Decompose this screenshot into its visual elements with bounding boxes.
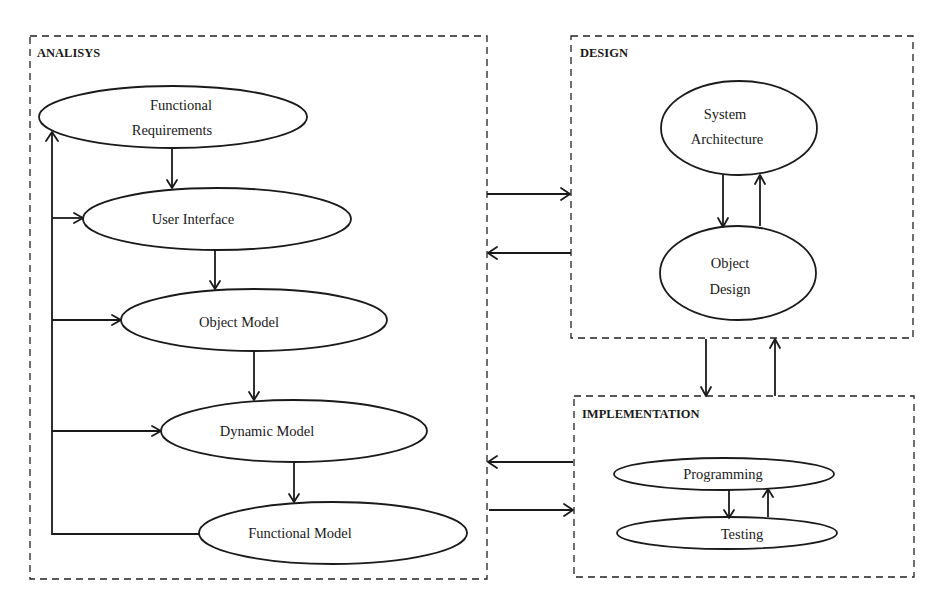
arrow-objectmodel-to-dynamicmodel bbox=[249, 351, 259, 400]
arrow-funcreq-to-userinterface bbox=[167, 148, 177, 188]
node-system-architecture[interactable]: System Architecture bbox=[661, 81, 817, 175]
object-model-label: Object Model bbox=[199, 314, 279, 330]
functional-requirements-label-line2: Requirements bbox=[132, 122, 213, 138]
node-user-interface[interactable]: User Interface bbox=[83, 188, 351, 250]
arrow-analysis-to-implementation bbox=[489, 504, 573, 516]
design-label: DESIGN bbox=[580, 46, 628, 60]
arrow-dynamicmodel-to-functionalmodel bbox=[289, 462, 299, 502]
arrow-feedback-to-dynamicmodel bbox=[52, 426, 161, 436]
arrow-objdesign-to-sysarch bbox=[755, 175, 765, 226]
arrow-design-to-implementation bbox=[701, 339, 711, 396]
arrow-programming-to-testing bbox=[724, 490, 734, 518]
arrow-analysis-to-design bbox=[487, 188, 570, 200]
arrow-feedback-to-objectmodel bbox=[52, 315, 121, 325]
dynamic-model-label: Dynamic Model bbox=[220, 423, 315, 439]
functional-model-label: Functional Model bbox=[248, 525, 352, 541]
node-functional-model[interactable]: Functional Model bbox=[199, 502, 467, 564]
arrow-userinterface-to-objectmodel bbox=[210, 250, 220, 289]
arrow-sysarch-to-objdesign bbox=[718, 175, 728, 227]
node-functional-requirements[interactable]: Functional Requirements bbox=[39, 86, 307, 148]
user-interface-label: User Interface bbox=[152, 211, 235, 227]
object-design-ellipse bbox=[660, 226, 816, 320]
arrow-testing-to-programming bbox=[763, 489, 773, 517]
oo-development-diagram: ANALISYS DESIGN IMPLEMENTATION Functiona… bbox=[0, 0, 940, 606]
functional-requirements-label-line1: Functional bbox=[150, 97, 212, 113]
functional-requirements-ellipse bbox=[39, 86, 307, 148]
arrow-design-to-analysis bbox=[488, 247, 571, 259]
object-design-label-line2: Design bbox=[709, 281, 751, 297]
node-object-model[interactable]: Object Model bbox=[121, 289, 387, 351]
node-object-design[interactable]: Object Design bbox=[660, 226, 816, 320]
arrow-implementation-to-analysis bbox=[488, 456, 573, 468]
node-programming[interactable]: Programming bbox=[614, 458, 834, 490]
programming-label: Programming bbox=[683, 466, 763, 482]
arrow-implementation-to-design bbox=[770, 339, 780, 396]
node-testing[interactable]: Testing bbox=[617, 517, 837, 549]
system-architecture-label-line2: Architecture bbox=[691, 131, 763, 147]
node-dynamic-model[interactable]: Dynamic Model bbox=[161, 400, 427, 462]
arrow-feedback-to-userinterface bbox=[52, 213, 83, 223]
system-architecture-label-line1: System bbox=[704, 106, 747, 122]
analysis-label: ANALISYS bbox=[37, 46, 100, 60]
implementation-label: IMPLEMENTATION bbox=[582, 407, 700, 421]
object-design-label-line1: Object bbox=[711, 255, 750, 271]
testing-label: Testing bbox=[721, 526, 763, 542]
system-architecture-ellipse bbox=[661, 81, 817, 175]
